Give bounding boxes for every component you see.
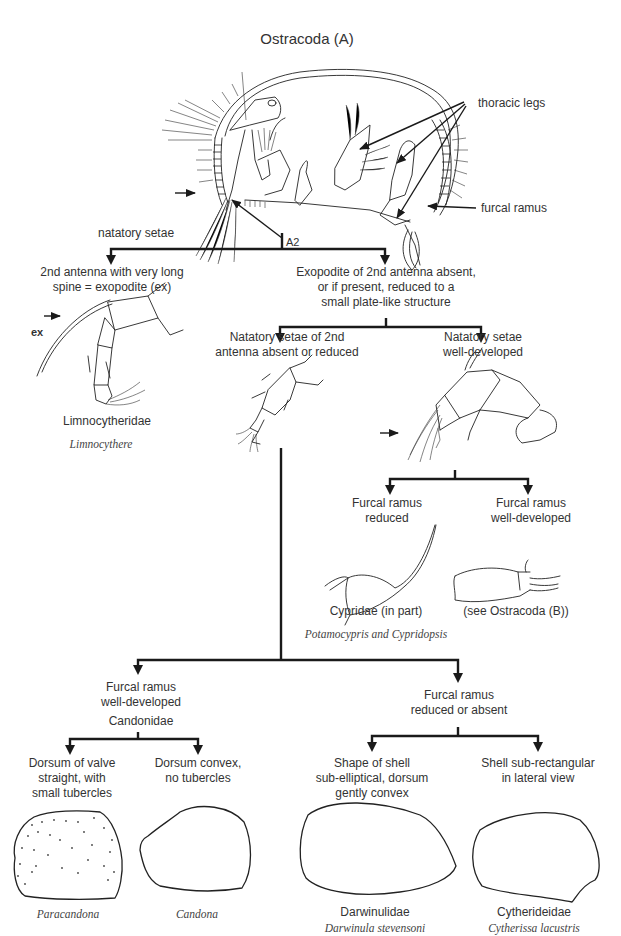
diagram-title: Ostracoda (A) (260, 31, 353, 46)
key-5a-line1: Dorsum of valve (29, 756, 116, 771)
ostracod-body-illustration (162, 69, 476, 270)
key-3a-line1: Furcal ramus (352, 496, 422, 511)
genus-limnocythere: Limnocythere (70, 437, 133, 452)
key-5d-line2: in lateral view (502, 771, 575, 786)
key-4b-line2: reduced or absent (411, 703, 508, 718)
key-2b-line2: well-developed (443, 345, 523, 360)
key-1b-line1: Exopodite of 2nd antenna absent, (296, 265, 475, 280)
key-3b-line2: well-developed (491, 511, 571, 526)
key-1b-line2: or if present, reduced to a (318, 280, 455, 295)
key-5b-line1: Dorsum convex, (155, 756, 242, 771)
candona-shell (140, 807, 251, 891)
genus-candona: Candona (176, 907, 218, 922)
genus-cytherissa-lacustris: Cytherissa lacustris (488, 921, 580, 936)
furca-well-developed-illustration (454, 560, 560, 602)
paracandona-shell (14, 811, 122, 899)
family-darwinulidae: Darwinulidae (340, 905, 409, 920)
key-1a-line1: 2nd antenna with very long (40, 265, 183, 280)
label-thoracic-legs: thoracic legs (478, 96, 545, 110)
genus-darwinula-stevensoni: Darwinula stevensoni (325, 921, 426, 936)
family-limnocytheridae: Limnocytheridae (63, 414, 151, 429)
key-1b-line3: small plate-like structure (321, 295, 450, 310)
label-ex: ex (31, 325, 43, 339)
well-developed-setae-antenna-illustration (380, 348, 557, 462)
key-2a-line1: Natatory setae of 2nd (230, 330, 345, 345)
label-furcal-ramus: furcal ramus (481, 201, 547, 215)
family-candonidae: Candonidae (109, 714, 174, 729)
key-5b-line2: no tubercles (165, 771, 230, 786)
genus-paracandona: Paracandona (37, 907, 100, 922)
key-2b-line1: Natatory setae (444, 330, 522, 345)
family-cypridae: Cypridae (in part) (330, 604, 423, 619)
label-natatory-setae: natatory setae (98, 226, 174, 240)
key-4b-line1: Furcal ramus (424, 688, 494, 703)
cytherissa-shell (473, 813, 599, 902)
darwinula-shell (300, 803, 456, 894)
note-see-ostracoda-b: (see Ostracoda (B)) (463, 604, 568, 619)
genus-potamocypris-cypridopsis: Potamocypris and Cypridopsis (305, 627, 447, 642)
key-1a-line2: spine = exopodite (ex) (53, 280, 171, 295)
key-5a-line3: small tubercles (32, 786, 112, 801)
reduced-setae-antenna-illustration (236, 355, 323, 452)
family-cytherideidae: Cytherideidae (497, 905, 571, 920)
limnocythere-antenna-illustration (37, 283, 183, 405)
key-3b-line1: Furcal ramus (496, 496, 566, 511)
key-5a-line2: straight, with (38, 771, 105, 786)
key-5c-line3: gently convex (335, 786, 408, 801)
label-a2: A2 (286, 235, 299, 249)
key-tree-connectors (70, 233, 538, 748)
key-5c-line2: sub-elliptical, dorsum (316, 771, 429, 786)
key-3a-line2: reduced (365, 511, 408, 526)
key-5d-line1: Shell sub-rectangular (481, 756, 594, 771)
key-4a-line2: well-developed (101, 695, 181, 710)
key-2a-line2: antenna absent or reduced (215, 345, 358, 360)
key-5c-line1: Shape of shell (334, 756, 410, 771)
key-4a-line1: Furcal ramus (106, 680, 176, 695)
